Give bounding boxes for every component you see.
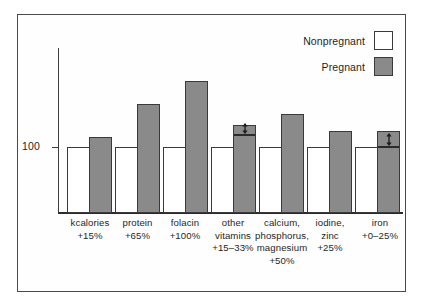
category-labels-layer: kcalories +15% protein +65% folacin +100… — [58, 217, 403, 291]
bar-group-protein — [115, 15, 160, 214]
bar-protein-pregnant — [137, 104, 160, 213]
bar-group-other-vitamins — [211, 15, 256, 214]
bar-iodine-nonpregnant — [307, 147, 330, 213]
label-line: +25% — [301, 242, 359, 255]
label-line: +0–25% — [347, 230, 413, 243]
bar-calcium-pregnant — [281, 114, 304, 213]
bar-calcium-nonpregnant — [259, 147, 282, 213]
bar-other-vitamins-range-divider — [234, 134, 255, 135]
bar-folacin-nonpregnant — [163, 147, 186, 213]
bar-chart-plot-area: Nonpregnant Pregnant 100 — [18, 15, 407, 293]
category-label-iron: iron +0–25% — [347, 217, 413, 242]
bar-folacin-pregnant — [185, 81, 208, 213]
bar-group-kcalories — [67, 15, 112, 214]
range-arrow-other-vitamins — [240, 123, 249, 134]
bar-iron-nonpregnant — [355, 147, 378, 213]
bar-group-folacin — [163, 15, 208, 214]
bar-kcalories-pregnant — [89, 137, 112, 213]
label-line: iron — [347, 217, 413, 230]
label-line: +50% — [246, 255, 318, 268]
bar-protein-nonpregnant — [115, 147, 138, 213]
bar-iron-range-divider — [378, 146, 399, 147]
bar-group-iron — [355, 15, 400, 214]
bar-other-vitamins-pregnant — [233, 125, 256, 213]
bar-other-vitamins-nonpregnant — [211, 147, 234, 213]
bars-layer — [58, 15, 403, 214]
bar-iron-pregnant — [377, 131, 400, 213]
bar-iodine-pregnant — [329, 131, 352, 213]
range-arrow-iron — [384, 133, 393, 146]
bar-kcalories-nonpregnant — [67, 147, 90, 213]
bar-group-calcium-phosphorus-magnesium — [259, 15, 304, 214]
figure-frame: Nonpregnant Pregnant 100 — [17, 14, 406, 292]
y-axis-tick-label-100: 100 — [22, 140, 40, 152]
bar-group-iodine-zinc — [307, 15, 352, 214]
